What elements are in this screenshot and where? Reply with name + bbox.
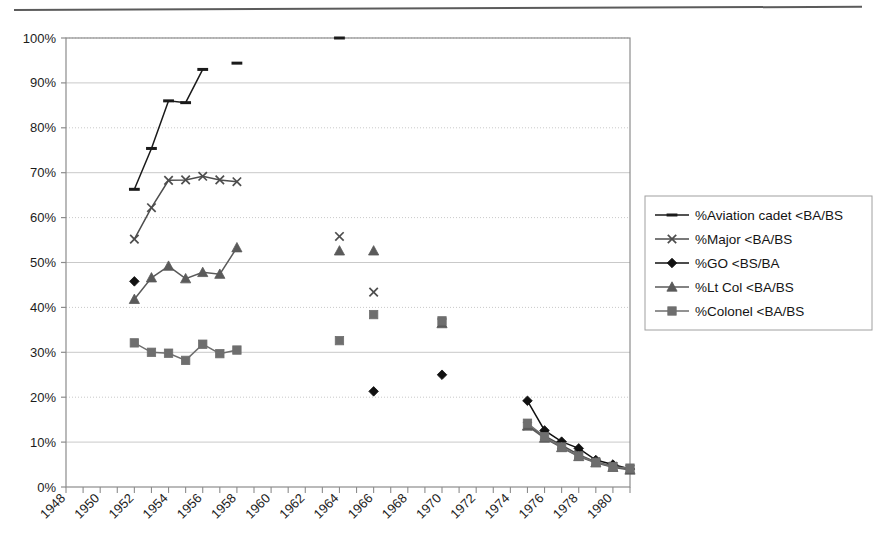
y-axis-label-60: 60% <box>30 210 56 225</box>
marker-square <box>668 307 676 315</box>
marker-square <box>335 336 343 344</box>
x-axis-label-1962: 1962 <box>276 491 307 522</box>
marker-square <box>557 443 565 451</box>
y-axis-label-50: 50% <box>30 255 56 270</box>
marker-cross <box>369 288 377 296</box>
marker-cross <box>335 232 343 240</box>
marker-diamond <box>369 387 379 397</box>
x-axis-label-1960: 1960 <box>242 491 273 522</box>
marker-square <box>540 433 548 441</box>
legend-label-4: %Lt Col <BA/BS <box>695 280 794 295</box>
x-axis-label-1976: 1976 <box>516 491 547 522</box>
x-axis-label-1958: 1958 <box>208 491 239 522</box>
marker-cross <box>147 204 155 212</box>
x-axis-label-1952: 1952 <box>105 491 136 522</box>
y-axis-label-20: 20% <box>30 390 56 405</box>
y-axis-ticks-group <box>61 38 66 487</box>
x-axis-labels-group: 1948195019521954195619581960196219641966… <box>37 491 615 522</box>
y-axis-labels-group: 100%90%80%70%60%50%40%30%20%10%0% <box>23 31 57 495</box>
series-5 <box>130 310 634 472</box>
marker-diamond <box>437 370 447 380</box>
y-axis-label-80: 80% <box>30 120 56 135</box>
marker-triangle <box>146 273 156 282</box>
marker-square <box>233 346 241 354</box>
x-axis-label-1968: 1968 <box>379 491 410 522</box>
marker-square <box>626 464 634 472</box>
legend-label-3: %GO <BS/BA <box>695 256 779 271</box>
marker-square <box>592 458 600 466</box>
marker-square <box>147 348 155 356</box>
y-axis-label-40: 40% <box>30 300 56 315</box>
legend-label-5: %Colonel <BA/BS <box>695 304 804 319</box>
marker-square <box>438 317 446 325</box>
marker-square <box>181 356 189 364</box>
x-axis-label-1978: 1978 <box>550 491 581 522</box>
x-axis-ticks-group <box>66 487 630 493</box>
y-axis-label-10: 10% <box>30 435 56 450</box>
x-axis-label-1954: 1954 <box>140 491 171 522</box>
marker-triangle <box>198 267 208 276</box>
gridlines-group <box>66 38 630 442</box>
marker-triangle <box>181 273 191 282</box>
y-axis-label-0: 0% <box>37 480 56 495</box>
marker-square <box>369 310 377 318</box>
series-line <box>134 176 237 239</box>
marker-triangle <box>369 246 379 255</box>
x-axis-label-1970: 1970 <box>413 491 444 522</box>
y-axis-label-90: 90% <box>30 75 56 90</box>
chart-page: 1948195019521954195619581960196219641966… <box>0 0 876 550</box>
x-axis-label-1974: 1974 <box>481 491 512 522</box>
series-line <box>134 69 202 189</box>
legend-group[interactable]: %Aviation cadet <BA/BS%Major <BA/BS%GO <… <box>645 196 872 330</box>
y-axis-label-70: 70% <box>30 165 56 180</box>
marker-square <box>199 340 207 348</box>
marker-square <box>609 463 617 471</box>
x-axis-label-1964: 1964 <box>311 491 342 522</box>
marker-square <box>523 419 531 427</box>
marker-diamond <box>130 277 140 287</box>
x-axis-label-1972: 1972 <box>447 491 478 522</box>
x-axis-label-1956: 1956 <box>174 491 205 522</box>
y-axis-label-30: 30% <box>30 345 56 360</box>
series-group <box>129 38 635 474</box>
x-axis-label-1950: 1950 <box>71 491 102 522</box>
x-axis-label-1948: 1948 <box>37 491 68 522</box>
marker-triangle <box>232 242 242 251</box>
marker-square <box>164 349 172 357</box>
legend-label-1: %Aviation cadet <BA/BS <box>695 208 843 223</box>
marker-square <box>575 452 583 460</box>
marker-diamond <box>523 396 533 406</box>
x-axis-label-1980: 1980 <box>584 491 615 522</box>
marker-square <box>216 349 224 357</box>
series-1 <box>129 38 345 189</box>
marker-square <box>130 339 138 347</box>
legend-label-2: %Major <BA/BS <box>695 232 792 247</box>
y-axis-label-100: 100% <box>23 31 57 46</box>
chart-figure: 1948195019521954195619581960196219641966… <box>0 0 876 550</box>
marker-triangle <box>334 246 344 255</box>
x-axis-label-1966: 1966 <box>345 491 376 522</box>
marker-cross <box>130 235 138 243</box>
